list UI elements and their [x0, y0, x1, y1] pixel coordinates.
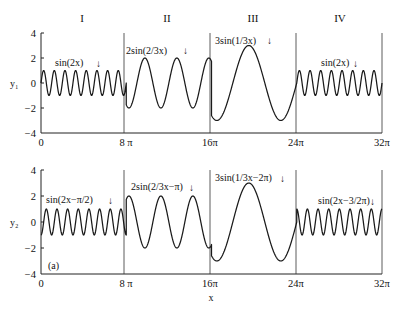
- svg-text:−2: −2: [25, 243, 36, 254]
- svg-text:−2: −2: [25, 103, 36, 114]
- annotation-sin2x-shift: sin(2x−π/2): [46, 194, 93, 206]
- bottom-panel: y₂ 4 2 0 −2 −4 0 8 π 16π 24π 32π x (a): [10, 165, 391, 303]
- svg-text:−4: −4: [25, 128, 37, 139]
- arrow-icon: ↓: [183, 45, 188, 56]
- svg-text:8 π: 8 π: [119, 278, 133, 289]
- annotation-sin2x-iv: sin(2x): [321, 57, 349, 69]
- svg-text:2: 2: [31, 53, 36, 64]
- svg-text:16π: 16π: [202, 278, 219, 289]
- arrow-icon: ↓: [280, 173, 285, 184]
- svg-text:−4: −4: [25, 269, 37, 280]
- panel-label: (a): [48, 260, 59, 272]
- svg-text:24π: 24π: [288, 278, 305, 289]
- annotation-3sin: 3sin(1/3x): [215, 35, 256, 47]
- svg-text:2: 2: [31, 191, 36, 202]
- svg-text:4: 4: [31, 28, 37, 39]
- arrow-icon: ↓: [267, 35, 272, 46]
- region-label-1: I: [80, 12, 84, 24]
- svg-text:0: 0: [31, 78, 36, 89]
- region-label-3: III: [248, 12, 259, 24]
- x-ticks: 0 8 π 16π 24π 32π: [38, 278, 390, 289]
- svg-text:16π: 16π: [202, 137, 219, 148]
- y-axis-label: y₁: [10, 78, 19, 89]
- annotation-3sin-shift: 3sin(1/3x−2π): [215, 172, 272, 184]
- arrow-icon: ↓: [108, 195, 113, 206]
- svg-text:24π: 24π: [288, 137, 305, 148]
- arrow-icon: ↓: [189, 182, 194, 193]
- chart-figure: I II III IV y₁ 4 2 0 −2 −4 0 8 π 16π: [0, 0, 394, 310]
- svg-text:0: 0: [38, 137, 43, 148]
- annotation-2sin-shift: 2sin(2/3x−π): [131, 181, 183, 193]
- annotation-sin2x-shift-iv: sin(2x−3/2π): [318, 195, 370, 207]
- top-panel: I II III IV y₁ 4 2 0 −2 −4 0 8 π 16π: [10, 12, 391, 148]
- x-ticks: 0 8 π 16π 24π 32π: [38, 137, 390, 148]
- y-axis-label: y₂: [10, 217, 19, 228]
- region-label-2: II: [163, 12, 171, 24]
- svg-text:32π: 32π: [374, 137, 391, 148]
- svg-text:8 π: 8 π: [119, 137, 133, 148]
- svg-text:32π: 32π: [374, 278, 391, 289]
- annotation-2sin: 2sin(2/3x): [126, 45, 167, 57]
- svg-text:0: 0: [38, 278, 43, 289]
- svg-text:0: 0: [31, 217, 36, 228]
- svg-text:4: 4: [31, 165, 37, 176]
- region-label-4: IV: [334, 12, 346, 24]
- annotation-sin2x: sin(2x): [55, 57, 83, 69]
- x-axis-label: x: [209, 292, 214, 303]
- arrow-icon: ↓: [96, 58, 101, 69]
- arrow-icon: ↓: [353, 58, 358, 69]
- arrow-icon: ↓: [370, 196, 375, 207]
